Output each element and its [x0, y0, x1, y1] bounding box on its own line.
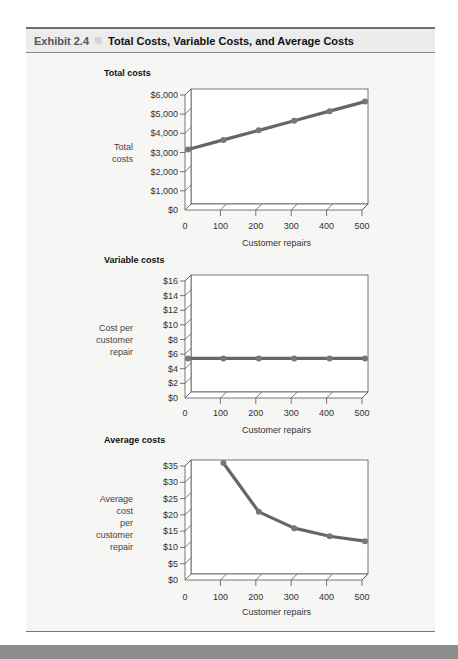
- data-point-marker: [362, 355, 368, 361]
- y-tick-label: $8: [168, 335, 178, 345]
- data-point-marker: [185, 147, 191, 153]
- x-tick-label: 500: [354, 592, 369, 602]
- y-axis-title: customer: [96, 335, 133, 345]
- y-tick-label: $4: [168, 364, 178, 374]
- data-point-marker: [291, 118, 297, 124]
- y-axis-title: Cost per: [99, 323, 133, 333]
- plot-area: [191, 275, 368, 392]
- data-point-marker: [362, 99, 368, 105]
- y-tick-label: $6,000: [150, 90, 178, 100]
- exhibit-title: Total Costs, Variable Costs, and Average…: [108, 35, 354, 47]
- data-point-marker: [327, 355, 333, 361]
- y-axis-title: per: [120, 518, 133, 528]
- y-tick-label: $0: [168, 575, 178, 585]
- x-tick-label: 0: [182, 592, 187, 602]
- x-tick-label: 400: [319, 592, 334, 602]
- y-tick-label: $6: [168, 349, 178, 359]
- x-axis-title: Customer repairs: [242, 238, 312, 248]
- variable-costs-chart: Variable costs$0$2$4$6$8$10$12$14$160100…: [0, 252, 458, 437]
- x-tick-label: 300: [284, 221, 299, 231]
- data-point-marker: [185, 355, 191, 361]
- y-tick-label: $0: [168, 393, 178, 403]
- data-point-marker: [220, 460, 226, 466]
- x-tick-label: 500: [354, 221, 369, 231]
- x-tick-label: 200: [248, 408, 263, 418]
- total-costs-chart: Total costs$0$1,000$2,000$3,000$4,000$5,…: [0, 65, 458, 245]
- y-tick-label: $4,000: [150, 128, 178, 138]
- y-tick-label: $3,000: [150, 148, 178, 158]
- y-axis-title: costs: [112, 154, 134, 164]
- plot-area: [191, 460, 368, 574]
- y-axis-title: repair: [110, 347, 133, 357]
- x-tick-label: 300: [284, 408, 299, 418]
- y-tick-label: $35: [163, 461, 178, 471]
- y-tick-label: $0: [168, 205, 178, 215]
- chart-title: Variable costs: [104, 255, 165, 265]
- y-tick-label: $5,000: [150, 109, 178, 119]
- x-tick-label: 100: [213, 408, 228, 418]
- y-tick-label: $5: [168, 559, 178, 569]
- y-tick-label: $10: [163, 542, 178, 552]
- bottom-rule: [26, 631, 435, 632]
- y-tick-label: $30: [163, 477, 178, 487]
- data-point-marker: [220, 355, 226, 361]
- y-tick-label: $25: [163, 494, 178, 504]
- average-costs-chart: Average costs$0$5$10$15$20$25$30$3501002…: [0, 432, 458, 622]
- y-tick-label: $20: [163, 510, 178, 520]
- plot-floor: [185, 204, 368, 210]
- data-point-marker: [220, 137, 226, 143]
- x-tick-label: 200: [248, 592, 263, 602]
- y-axis-title: customer: [96, 530, 133, 540]
- x-tick-label: 100: [213, 592, 228, 602]
- plot-floor: [185, 574, 368, 580]
- y-tick-label: $1,000: [150, 186, 178, 196]
- exhibit-header: Exhibit 2.4 Total Costs, Variable Costs,…: [26, 27, 435, 53]
- y-tick-label: $14: [163, 291, 178, 301]
- x-tick-label: 200: [248, 221, 263, 231]
- plot-floor: [185, 392, 368, 398]
- plot-area: [191, 89, 368, 204]
- data-point-marker: [256, 127, 262, 133]
- y-tick-label: $2,000: [150, 167, 178, 177]
- x-tick-label: 400: [319, 221, 334, 231]
- page-footer-bar: [0, 645, 458, 659]
- y-axis-title: repair: [110, 542, 133, 552]
- y-tick-label: $15: [163, 526, 178, 536]
- chart-title: Total costs: [104, 68, 151, 78]
- exhibit-number: Exhibit 2.4: [34, 35, 89, 47]
- x-axis-title: Customer repairs: [242, 607, 312, 617]
- y-axis-title: Average: [100, 494, 133, 504]
- x-tick-label: 100: [213, 221, 228, 231]
- y-tick-label: $12: [163, 305, 178, 315]
- data-point-marker: [327, 533, 333, 539]
- x-tick-label: 400: [319, 408, 334, 418]
- data-point-marker: [362, 538, 368, 544]
- data-point-marker: [291, 525, 297, 531]
- square-bullet-icon: [95, 37, 102, 44]
- plot-left-wall: [185, 460, 191, 580]
- chart-title: Average costs: [104, 435, 165, 445]
- x-tick-label: 300: [284, 592, 299, 602]
- y-axis-title: Total: [114, 142, 133, 152]
- data-point-marker: [256, 509, 262, 515]
- data-point-marker: [291, 355, 297, 361]
- y-axis-title: cost: [116, 506, 133, 516]
- y-tick-label: $16: [163, 276, 178, 286]
- x-tick-label: 500: [354, 408, 369, 418]
- data-point-marker: [327, 108, 333, 114]
- y-tick-label: $2: [168, 378, 178, 388]
- data-point-marker: [256, 355, 262, 361]
- y-tick-label: $10: [163, 320, 178, 330]
- x-tick-label: 0: [182, 221, 187, 231]
- x-tick-label: 0: [182, 408, 187, 418]
